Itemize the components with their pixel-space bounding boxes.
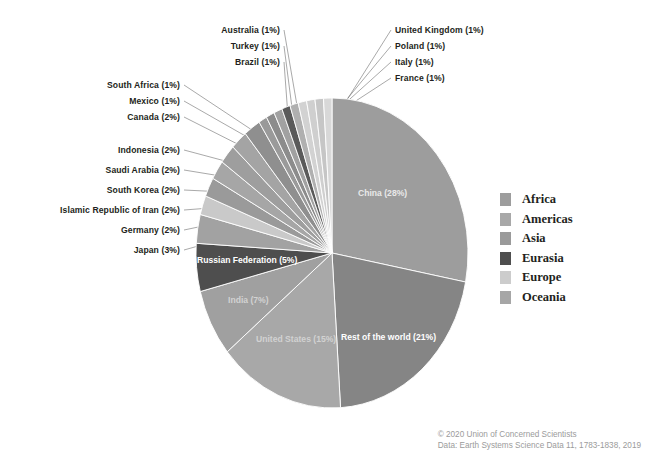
footer-source-line: Data: Earth Systems Science Data 11, 178… xyxy=(438,440,641,451)
legend-color-swatch xyxy=(500,271,511,284)
legend-item[interactable]: Eurasia xyxy=(500,249,620,269)
callout-label: Canada (2%) xyxy=(0,112,180,122)
slice-value-label: India (7%) xyxy=(228,295,269,305)
legend-color-swatch xyxy=(500,193,511,206)
slice-value-label: United States (15%) xyxy=(256,334,336,344)
callout-label: Islamic Republic of Iran (2%) xyxy=(0,205,180,215)
legend-item-label: Asia xyxy=(522,231,546,246)
callout-label: France (1%) xyxy=(395,73,445,83)
slice-value-label: China (28%) xyxy=(358,188,407,198)
legend-item[interactable]: Africa xyxy=(500,190,620,210)
legend-item-label: Eurasia xyxy=(522,251,564,266)
legend-color-swatch xyxy=(500,291,511,304)
callout-label: Germany (2%) xyxy=(0,225,180,235)
legend-color-swatch xyxy=(500,232,511,245)
callout-label: Indonesia (2%) xyxy=(0,145,180,155)
legend-item[interactable]: Asia xyxy=(500,229,620,249)
legend-item-label: Europe xyxy=(522,270,561,285)
footer-copyright-line: © 2020 Union of Concerned Scientists xyxy=(438,429,641,440)
slice-value-label: Rest of the world (21%) xyxy=(341,332,436,342)
legend-color-swatch xyxy=(500,252,511,265)
legend-item[interactable]: Europe xyxy=(500,268,620,288)
chart-footer-credit: © 2020 Union of Concerned Scientists Dat… xyxy=(438,429,641,451)
callout-label: United Kingdom (1%) xyxy=(395,25,484,35)
callout-label: Japan (3%) xyxy=(0,245,180,255)
legend-item-label: Americas xyxy=(522,212,573,227)
legend-item[interactable]: Americas xyxy=(500,210,620,230)
legend-color-swatch xyxy=(500,213,511,226)
callout-label: Saudi Arabia (2%) xyxy=(0,165,180,175)
callout-label: Italy (1%) xyxy=(395,57,434,67)
chart-legend: AfricaAmericasAsiaEurasiaEuropeOceania xyxy=(500,190,620,307)
callout-label: Mexico (1%) xyxy=(0,96,180,106)
callout-label: South Korea (2%) xyxy=(0,185,180,195)
pie-chart-figure: China (28%)Rest of the world (21%)United… xyxy=(0,0,657,465)
callout-label: Turkey (1%) xyxy=(0,41,280,51)
callout-label: South Africa (1%) xyxy=(0,80,180,90)
legend-item-label: Oceania xyxy=(522,290,566,305)
pie-slices-group: China (28%)Rest of the world (21%)United… xyxy=(196,98,468,408)
callout-label: Brazil (1%) xyxy=(0,57,280,67)
slice-value-label: Russian Federation (5%) xyxy=(197,255,297,265)
legend-item[interactable]: Oceania xyxy=(500,288,620,308)
legend-item-label: Africa xyxy=(522,192,556,207)
callout-label: Poland (1%) xyxy=(395,41,445,51)
callout-label: Australia (1%) xyxy=(0,25,280,35)
